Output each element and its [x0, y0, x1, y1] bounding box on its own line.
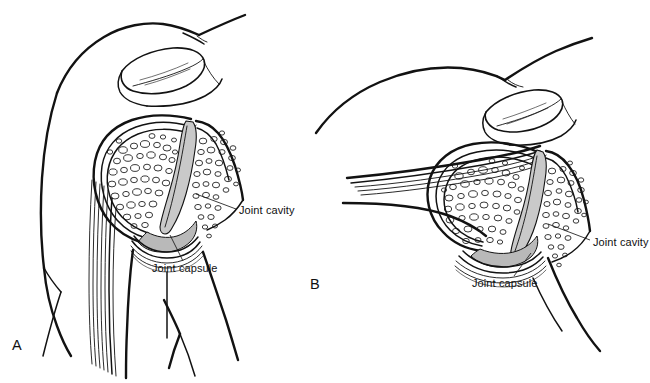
muscle-fiber-1-a [89, 180, 92, 364]
humerus-shaft-left-a [126, 250, 133, 378]
label-joint-capsule-a: Joint capsule [152, 263, 218, 274]
muscle-fiber-7-a [113, 208, 116, 376]
muscle-fiber-2-a [93, 182, 96, 366]
trabeculae-glenoid-a [193, 131, 241, 238]
panel-letter-a: A [12, 338, 22, 353]
acromion-process-under-b [562, 102, 575, 124]
label-joint-cavity-b: Joint cavity [593, 237, 649, 248]
trabeculae-glenoid-b [543, 161, 589, 267]
muscle-fiber-3-a [97, 184, 100, 368]
arm-skin-lower-a [44, 268, 71, 356]
anatomy-figure: Joint cavity Joint capsule A Joint cavit… [0, 0, 650, 383]
acromion-process-under-a [204, 62, 219, 84]
neck-contour-b [505, 38, 592, 80]
trabeculae-humeral-head-b [441, 159, 524, 244]
leader-joint-cavity-b [548, 224, 590, 240]
panel-a-illustration [41, 15, 245, 378]
forearm-contour-3-a [180, 334, 195, 376]
panel-letter-b: B [310, 277, 320, 292]
clavicle-upper-edge-a [199, 15, 245, 35]
arm-skin-crease-a [43, 292, 61, 356]
acromion-a [121, 48, 205, 94]
anatomy-illustration [0, 0, 650, 383]
leader-joint-cavity-a [196, 194, 236, 209]
label-joint-capsule-b: Joint capsule [472, 278, 538, 289]
panel-b-illustration [316, 38, 600, 351]
deltoid-skin-contour-a [41, 93, 57, 268]
shoulder-top-contour-b [316, 68, 505, 133]
clavicle-detail-b [508, 80, 523, 87]
forearm-contour-2-a [169, 334, 180, 368]
humerus-shaft-b [548, 258, 600, 351]
label-joint-cavity-a: Joint cavity [239, 205, 295, 216]
